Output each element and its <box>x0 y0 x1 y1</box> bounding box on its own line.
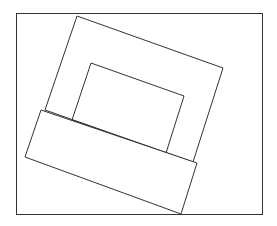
diagram-canvas <box>0 0 277 226</box>
base-rotated-rectangle <box>25 110 197 214</box>
